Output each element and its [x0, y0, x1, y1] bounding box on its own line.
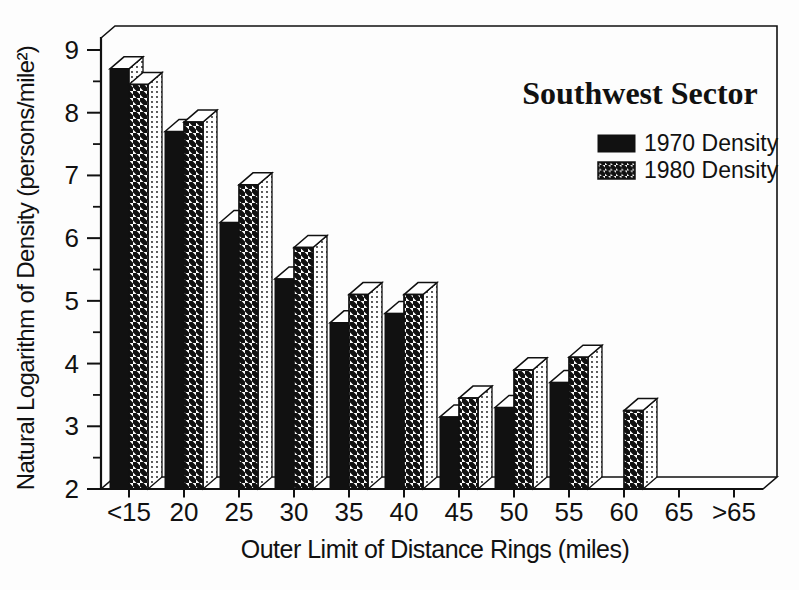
- bar-side-face: [588, 345, 602, 489]
- x-tick-label: 45: [445, 497, 474, 527]
- bar-front-face: [330, 323, 349, 489]
- bar-front-face: [349, 295, 368, 489]
- x-tick-label: 65: [665, 497, 694, 527]
- legend-swatch-1970: [598, 135, 635, 152]
- y-tick-label: 2: [65, 474, 79, 504]
- bar-front-face: [165, 132, 184, 489]
- bar-front-face: [385, 313, 404, 489]
- bar-front-face: [129, 84, 148, 489]
- bar-front-face: [550, 382, 569, 489]
- chart-title: Southwest Sector: [522, 75, 758, 111]
- bar-1980-55: [569, 345, 602, 489]
- bar-1980-50: [514, 358, 547, 489]
- y-tick-label: 5: [65, 286, 79, 316]
- legend-swatch-1980: [598, 162, 635, 179]
- y-tick-label: 4: [65, 349, 79, 379]
- bar-1980-30: [294, 236, 327, 489]
- bar-1980-60: [624, 399, 657, 489]
- bar-side-face: [643, 399, 657, 489]
- x-tick-label: 35: [335, 497, 364, 527]
- x-tick-label: 30: [280, 497, 309, 527]
- x-tick-label: 60: [610, 497, 639, 527]
- x-tick-label: 55: [555, 497, 584, 527]
- bar-side-face: [313, 236, 327, 489]
- bar-side-face: [533, 358, 547, 489]
- bar-front-face: [404, 295, 423, 489]
- bar-side-face: [368, 283, 382, 489]
- y-tick-label: 3: [65, 411, 79, 441]
- bar-1980-20: [184, 110, 217, 489]
- scanned-figure: 23456789<1520253035404550556065>65 South…: [0, 0, 799, 590]
- bar-front-face: [184, 122, 203, 489]
- x-axis-title: Outer Limit of Distance Rings (miles): [241, 535, 630, 563]
- bar-front-face: [459, 398, 478, 489]
- bar-front-face: [624, 411, 643, 489]
- bar-side-face: [148, 72, 162, 489]
- bar-1980-35: [349, 283, 382, 489]
- y-tick-label: 6: [65, 223, 79, 253]
- bar-side-face: [423, 283, 437, 489]
- bar-front-face: [569, 357, 588, 489]
- x-tick-label: 25: [225, 497, 254, 527]
- x-tick-label: 40: [390, 497, 419, 527]
- bar-1980-40: [404, 283, 437, 489]
- bar-1980-45: [459, 386, 492, 489]
- y-tick-label: 8: [65, 98, 79, 128]
- bars-layer: [110, 57, 657, 489]
- bar-front-face: [495, 407, 514, 489]
- y-tick-label: 7: [65, 160, 79, 190]
- bar-front-face: [275, 279, 294, 489]
- bar-side-face: [203, 110, 217, 489]
- y-axis-title: Natural Logarithm of Density (persons/mi…: [12, 46, 39, 490]
- legend: 1970 Density 1980 Density: [598, 130, 779, 183]
- x-tick-label: >65: [712, 497, 756, 527]
- bar-side-face: [478, 386, 492, 489]
- legend-label-1980: 1980 Density: [644, 157, 779, 183]
- bar-front-face: [239, 185, 258, 489]
- bar-front-face: [440, 417, 459, 489]
- y-tick-label: 9: [65, 35, 79, 65]
- bar-1980-<15: [129, 72, 162, 489]
- bar-side-face: [258, 173, 272, 489]
- bar-front-face: [294, 248, 313, 489]
- legend-label-1970: 1970 Density: [644, 130, 779, 156]
- bar-chart-3d: 23456789<1520253035404550556065>65 South…: [0, 0, 799, 590]
- x-tick-label: 20: [170, 497, 199, 527]
- x-tick-label: <15: [107, 497, 151, 527]
- bar-front-face: [110, 69, 129, 489]
- bar-front-face: [514, 370, 533, 489]
- x-tick-label: 50: [500, 497, 529, 527]
- bar-1980-25: [239, 173, 272, 489]
- bar-front-face: [220, 222, 239, 489]
